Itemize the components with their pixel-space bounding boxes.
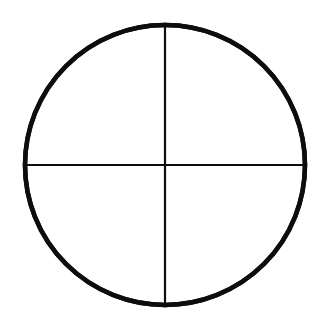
background-rect [0, 0, 327, 323]
geometric-figure-svg [0, 0, 327, 323]
figure-canvas [0, 0, 327, 323]
